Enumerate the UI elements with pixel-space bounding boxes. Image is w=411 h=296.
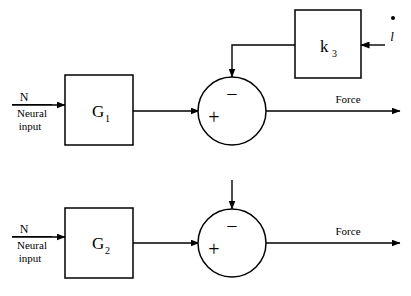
row1-feedback-input-dot-accent-icon: [391, 16, 395, 20]
row2-summing-junction-minus-sign: −: [226, 215, 237, 237]
row2-input-caption-line2: input: [19, 252, 42, 264]
row1-summing-junction-minus-sign: −: [226, 83, 237, 105]
row2-input-caption-line1: Neural: [17, 239, 47, 251]
row1-input-caption-line2: input: [19, 120, 42, 132]
row1-gain-block-label: G: [92, 102, 104, 121]
diagram-row-1: N Neural input G 1 − + k 3 l: [12, 10, 400, 145]
row1-feedback-block-subscript: 3: [332, 48, 337, 59]
row1-feedback-block-label: k: [320, 37, 329, 56]
row2-output-label: Force: [335, 225, 360, 237]
block-diagram-figure: N Neural input G 1 − + k 3 l: [0, 0, 411, 296]
row1-output-label: Force: [335, 93, 360, 105]
row2-summing-junction-plus-sign: +: [208, 238, 219, 260]
row1-input-caption-line1: Neural: [17, 107, 47, 119]
row1-input-symbol: N: [20, 90, 29, 104]
row2-gain-block-label: G: [92, 234, 104, 253]
diagram-canvas: N Neural input G 1 − + k 3 l: [0, 0, 411, 296]
row2-input-symbol: N: [20, 222, 29, 236]
row1-feedback-input-symbol: l: [390, 29, 394, 44]
diagram-row-2: N Neural input G 2 − + Force: [12, 180, 400, 278]
row1-feedback-wire: [232, 45, 295, 77]
row1-summing-junction-plus-sign: +: [208, 106, 219, 128]
row2-gain-block-subscript: 2: [105, 245, 110, 256]
row1-gain-block-subscript: 1: [105, 113, 110, 124]
